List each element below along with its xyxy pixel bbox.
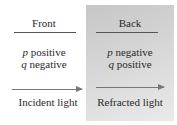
- refracted-arrow-icon: [96, 87, 164, 88]
- back-column: Back p negative q positive Refracted lig…: [94, 0, 166, 125]
- back-heading: Back: [94, 17, 166, 29]
- back-q-sign: q positive: [94, 59, 166, 70]
- incident-arrow-icon: [12, 89, 82, 90]
- front-p-sign-text: positive: [28, 46, 66, 58]
- front-q-sign-text: negative: [27, 58, 67, 70]
- front-heading-rule: [14, 32, 76, 33]
- back-heading-rule: [96, 32, 158, 33]
- front-heading: Front: [10, 17, 78, 29]
- refracted-light-label: Refracted light: [94, 96, 166, 108]
- front-column: Front p positive q negative Incident lig…: [10, 0, 78, 125]
- back-q-sign-text: positive: [114, 58, 152, 70]
- incident-light-label: Incident light: [14, 96, 82, 108]
- front-p-sign: p positive: [10, 47, 78, 58]
- front-q-sign: q negative: [10, 59, 78, 70]
- back-p-sign-text: negative: [113, 46, 153, 58]
- back-p-sign: p negative: [94, 47, 166, 58]
